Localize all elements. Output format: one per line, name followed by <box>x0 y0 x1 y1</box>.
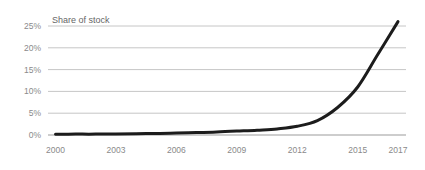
x-tick-label: 2003 <box>106 145 125 155</box>
y-tick-label: 20% <box>24 43 41 53</box>
chart-title: Share of stock <box>52 15 110 25</box>
y-tick-label: 15% <box>24 65 41 75</box>
line-chart-svg: 0%5%10%15%20%25%200020032006200920122015… <box>0 0 425 170</box>
y-tick-label: 25% <box>24 21 41 31</box>
x-tick-label: 2015 <box>348 145 367 155</box>
y-tick-label: 5% <box>29 108 42 118</box>
x-tick-label: 2000 <box>46 145 65 155</box>
data-line <box>56 22 399 135</box>
y-tick-label: 10% <box>24 86 41 96</box>
y-tick-label: 0% <box>29 130 42 140</box>
series-layer <box>56 22 399 135</box>
chart-card: 0%5%10%15%20%25%200020032006200920122015… <box>0 0 425 170</box>
x-tick-label: 2009 <box>227 145 246 155</box>
x-tick-label: 2006 <box>167 145 186 155</box>
x-tick-label: 2012 <box>288 145 307 155</box>
grid-layer <box>48 26 406 135</box>
x-tick-label: 2017 <box>389 145 408 155</box>
